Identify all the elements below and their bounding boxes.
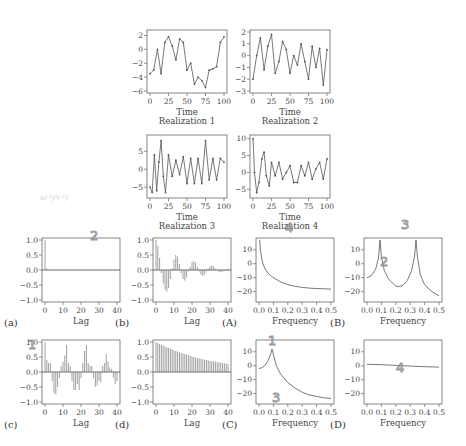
- svg-text:2: 2: [380, 254, 388, 269]
- svg-text:0: 0: [241, 168, 246, 177]
- svg-text:75: 75: [201, 202, 211, 211]
- svg-text:0.5: 0.5: [26, 353, 38, 362]
- svg-text:3: 3: [272, 390, 280, 405]
- panel-label: (b): [115, 317, 129, 328]
- svg-text:0: 0: [355, 259, 360, 268]
- svg-text:−10: −10: [344, 273, 360, 282]
- svg-text:1.0: 1.0: [137, 338, 149, 347]
- svg-text:−3: −3: [235, 87, 246, 96]
- svg-text:1.0: 1.0: [137, 236, 149, 245]
- svg-text:25: 25: [267, 202, 277, 211]
- svg-text:0.2: 0.2: [390, 408, 402, 417]
- svg-text:2: 2: [241, 28, 246, 37]
- svg-text:5: 5: [241, 151, 246, 160]
- svg-text:0.0: 0.0: [137, 368, 149, 377]
- svg-text:0.5: 0.5: [26, 251, 38, 260]
- svg-text:Frequency: Frequency: [380, 316, 426, 326]
- svg-text:0.3: 0.3: [296, 306, 308, 315]
- svg-text:0.4: 0.4: [419, 408, 431, 417]
- svg-text:−2: −2: [235, 75, 246, 84]
- svg-text:0.2: 0.2: [390, 306, 402, 315]
- svg-text:10: 10: [242, 347, 252, 356]
- realization-title: Realization 2: [262, 116, 318, 126]
- svg-text:Lag: Lag: [184, 418, 201, 428]
- svg-text:0: 0: [138, 45, 143, 54]
- svg-text:0: 0: [251, 97, 256, 106]
- svg-text:0: 0: [247, 259, 252, 268]
- svg-text:0: 0: [241, 51, 246, 60]
- panel-label: (c): [4, 419, 18, 430]
- svg-text:50: 50: [285, 202, 295, 211]
- figure-canvas: −6−4−2020255075100TimeRealization 1−3−2−…: [0, 0, 466, 446]
- svg-text:10: 10: [350, 245, 360, 254]
- svg-text:0.5: 0.5: [137, 251, 149, 260]
- svg-text:0.2: 0.2: [282, 306, 294, 315]
- svg-text:−10: −10: [344, 375, 360, 384]
- svg-text:Lag: Lag: [73, 316, 90, 326]
- svg-text:0.1: 0.1: [375, 306, 387, 315]
- svg-text:1: 1: [268, 333, 276, 348]
- svg-text:0.3: 0.3: [296, 408, 308, 417]
- svg-text:0: 0: [43, 408, 48, 417]
- svg-text:25: 25: [164, 97, 174, 106]
- svg-text:0: 0: [247, 361, 252, 370]
- svg-text:2: 2: [138, 31, 143, 40]
- svg-text:Frequency: Frequency: [272, 418, 318, 428]
- acf-b-plot: −1.0−0.50.00.51.0010203040Lag(b): [115, 236, 233, 329]
- svg-text:Lag: Lag: [73, 418, 90, 428]
- svg-text:3: 3: [401, 217, 409, 232]
- svg-text:0.3: 0.3: [404, 408, 416, 417]
- svg-text:0.1: 0.1: [267, 408, 279, 417]
- svg-text:20: 20: [76, 408, 86, 417]
- svg-text:100: 100: [320, 202, 335, 211]
- svg-text:−1.0: −1.0: [20, 296, 38, 305]
- svg-text:75: 75: [201, 97, 211, 106]
- svg-text:0.5: 0.5: [433, 306, 445, 315]
- svg-text:Frequency: Frequency: [272, 316, 318, 326]
- handwritten-annotations: 21432341x(·¹)³(·¹): [28, 194, 409, 405]
- svg-text:−1.0: −1.0: [20, 398, 38, 407]
- svg-text:−1.0: −1.0: [131, 398, 149, 407]
- svg-text:10: 10: [58, 408, 68, 417]
- svg-text:30: 30: [205, 306, 215, 315]
- realization4-plot: −505100255075100TimeRealization 4: [235, 134, 334, 231]
- spec-D-plot: −20−100100.00.10.20.30.40.5Frequency(D): [330, 340, 445, 430]
- svg-text:30: 30: [205, 408, 215, 417]
- svg-text:100: 100: [320, 97, 335, 106]
- svg-text:4: 4: [285, 220, 293, 235]
- svg-text:40: 40: [223, 306, 233, 315]
- svg-text:75: 75: [304, 202, 314, 211]
- svg-text:0.0: 0.0: [253, 306, 265, 315]
- svg-text:50: 50: [182, 97, 192, 106]
- svg-text:30: 30: [94, 408, 104, 417]
- svg-text:0.1: 0.1: [267, 306, 279, 315]
- svg-text:−10: −10: [236, 375, 252, 384]
- svg-text:0.4: 0.4: [419, 306, 431, 315]
- svg-text:40: 40: [223, 408, 233, 417]
- svg-text:0.1: 0.1: [375, 408, 387, 417]
- svg-text:10: 10: [58, 306, 68, 315]
- svg-text:0.0: 0.0: [361, 408, 373, 417]
- svg-text:0.4: 0.4: [311, 408, 323, 417]
- svg-text:20: 20: [187, 306, 197, 315]
- svg-text:1: 1: [241, 39, 246, 48]
- svg-text:0.0: 0.0: [253, 408, 265, 417]
- svg-text:−0.5: −0.5: [20, 281, 38, 290]
- svg-text:10: 10: [242, 245, 252, 254]
- faint-scribble: x(·¹)³(·¹): [40, 194, 68, 202]
- svg-text:Frequency: Frequency: [380, 418, 426, 428]
- svg-text:0.5: 0.5: [137, 353, 149, 362]
- svg-text:0.0: 0.0: [26, 368, 38, 377]
- svg-text:−6: −6: [132, 87, 143, 96]
- spec-A-plot: −20−100100.00.10.20.30.40.5Frequency(A): [222, 238, 337, 328]
- svg-text:−20: −20: [236, 287, 252, 296]
- svg-text:−0.5: −0.5: [20, 383, 38, 392]
- svg-text:−4: −4: [132, 73, 143, 82]
- panel-label: (a): [4, 317, 18, 328]
- panel-label: (D): [330, 419, 346, 430]
- svg-text:10: 10: [236, 134, 246, 143]
- svg-text:−10: −10: [236, 273, 252, 282]
- svg-text:0.0: 0.0: [26, 266, 38, 275]
- panel-label: (A): [222, 317, 237, 328]
- svg-text:−20: −20: [344, 389, 360, 398]
